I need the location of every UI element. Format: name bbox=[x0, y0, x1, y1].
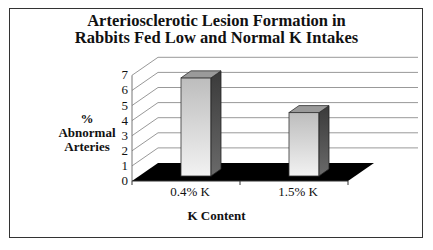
gridline-side bbox=[132, 148, 158, 166]
gridline-side bbox=[132, 57, 158, 75]
y-tick-label: 3 bbox=[114, 128, 128, 144]
gridline-side bbox=[132, 133, 158, 151]
x-category-label: 0.4% K bbox=[160, 184, 220, 200]
x-axis-label: K Content bbox=[0, 208, 433, 224]
y-tick-label: 6 bbox=[114, 82, 128, 98]
gridline-side bbox=[132, 118, 158, 136]
y-tick-label: 4 bbox=[114, 113, 128, 129]
gridline-side bbox=[132, 103, 158, 121]
x-category-label: 1.5% K bbox=[268, 184, 328, 200]
bar-side bbox=[319, 106, 329, 176]
chart-floor bbox=[132, 163, 374, 181]
y-tick-label: 5 bbox=[114, 98, 128, 114]
bar-front bbox=[289, 113, 319, 176]
y-tick-label: 0 bbox=[114, 173, 128, 189]
bar-front bbox=[181, 78, 211, 176]
gridline-side bbox=[132, 72, 158, 90]
y-tick-label: 1 bbox=[114, 158, 128, 174]
y-tick-label: 7 bbox=[114, 67, 128, 83]
y-tick-label: 2 bbox=[114, 143, 128, 159]
gridline-side bbox=[132, 88, 158, 106]
bar-side bbox=[211, 71, 221, 176]
